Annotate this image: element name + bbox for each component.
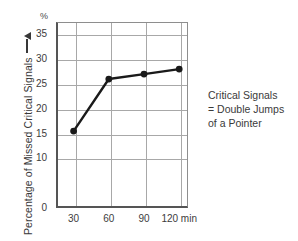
y-axis-tick-label: 25 <box>25 79 47 89</box>
y-axis-tick-label: 0 <box>25 203 47 213</box>
y-axis-tick-label: 20 <box>25 104 47 114</box>
gridline-horizontal <box>58 85 187 86</box>
y-axis-arrow-rule <box>26 39 28 53</box>
gridline-vertical <box>111 23 112 206</box>
y-axis-tick-label: 10 <box>25 153 47 163</box>
y-axis-tick-label: 30 <box>25 54 47 64</box>
y-axis-unit-caption: % <box>40 11 48 21</box>
gridline-horizontal <box>58 35 187 36</box>
gridline-horizontal <box>58 60 187 61</box>
annotation-line-2: = Double Jumps <box>208 102 284 116</box>
gridline-horizontal <box>58 135 187 136</box>
annotation-line-3: of a Pointer <box>208 116 284 130</box>
gridline-horizontal <box>58 159 187 160</box>
y-axis-tick-label: 35 <box>25 29 47 39</box>
gridline-horizontal <box>58 110 187 111</box>
plot-area <box>56 22 188 208</box>
annotation-line-1: Critical Signals <box>208 88 284 102</box>
gridline-vertical <box>146 23 147 206</box>
x-axis-tick-label: 120 min <box>149 213 209 224</box>
gridline-vertical <box>181 23 182 206</box>
chart-annotation: Critical Signals = Double Jumps of a Poi… <box>208 88 284 130</box>
y-axis-tick-label: 15 <box>25 129 47 139</box>
chart-figure: Percentage of Missed Critical Signals % … <box>0 0 298 241</box>
gridline-vertical <box>76 23 77 206</box>
